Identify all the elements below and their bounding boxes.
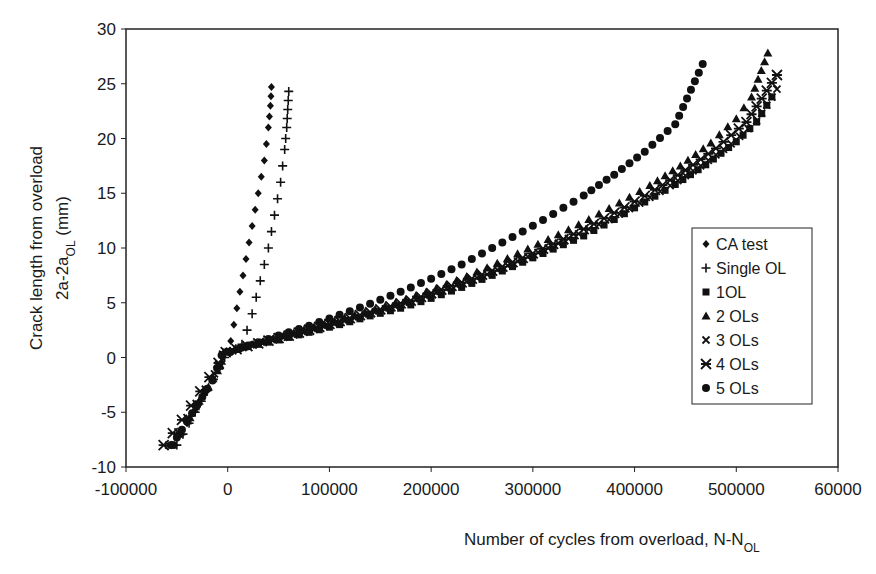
x-tick-label: 200000 [403,480,460,499]
legend-label: Single OL [716,260,786,277]
data-point [580,191,588,199]
x-tick-label: -100000 [95,480,157,499]
data-point [498,239,506,247]
legend-label: 2 OLs [716,308,759,325]
data-point [437,270,445,278]
data-point [198,393,206,401]
data-point [488,244,496,252]
data-point [478,249,486,257]
y-axis-title-sub: OL [64,240,78,256]
data-point [254,338,262,346]
y-axis-title-main: 2a-2a [53,256,72,300]
data-point [183,418,191,426]
data-point [407,283,415,291]
data-point [305,322,313,330]
data-point [208,376,216,384]
y-axis-title-line2: 2a-2aOL (mm) [53,196,78,300]
data-point [386,292,394,300]
x-tick-label: 100000 [301,480,358,499]
data-point [366,300,374,308]
data-point [559,204,567,212]
data-point [417,279,425,287]
data-point [226,348,234,356]
y-axis-title-unit: (mm) [53,196,72,240]
data-point [275,332,283,340]
y-tick-label: 20 [97,130,116,149]
data-point [168,441,176,449]
x-axis-title-main: Number of cycles from overload, N-N [464,530,744,549]
data-point [213,364,221,372]
legend-marker-icon [703,289,710,296]
y-tick-label: 25 [97,75,116,94]
y-axis-title-line1: Crack length from overload [27,146,46,350]
data-point [376,296,384,304]
data-point [587,186,595,194]
data-point [244,341,252,349]
y-tick-label: 10 [97,239,116,258]
data-point [625,159,633,167]
data-point [397,288,405,296]
data-point [519,228,527,236]
data-point [695,69,703,77]
data-point [687,86,695,94]
data-point [549,210,557,218]
data-point [679,103,687,111]
y-tick-label: 30 [97,20,116,39]
data-point [699,60,707,68]
data-point [509,233,517,241]
data-point [595,181,603,189]
legend-label: 4 OLs [716,356,759,373]
data-point [633,153,641,161]
data-point [325,314,333,322]
data-point [218,351,226,359]
x-axis-title: Number of cycles from overload, N-NOL [464,530,760,555]
x-tick-label: 400000 [606,480,663,499]
data-point [656,134,664,142]
data-point [671,120,679,128]
legend-label: 1OL [716,284,746,301]
y-tick-label: 0 [107,349,116,368]
data-point [235,345,243,353]
y-tick-label: -5 [101,403,116,422]
data-point [610,171,618,179]
legend-label: 5 OLs [716,380,759,397]
x-tick-label: 0 [223,480,232,499]
data-point [691,77,699,85]
data-point [285,328,293,336]
data-point [203,385,211,393]
data-point [664,127,672,135]
data-point [346,307,354,315]
x-tick-label: 500000 [708,480,765,499]
data-point [427,275,435,283]
legend-label: 3 OLs [716,332,759,349]
data-point [570,198,578,206]
legend-marker-icon [702,384,710,392]
data-point [603,176,611,184]
y-tick-label: 15 [97,184,116,203]
data-point [683,94,691,102]
data-point [315,318,323,326]
data-point [539,216,547,224]
data-point [173,433,181,441]
data-point [641,148,649,156]
legend: CA testSingle OL1OL2 OLs3 OLs4 OLs5 OLs [692,228,812,404]
data-point [648,141,656,149]
data-point [618,165,626,173]
data-point [447,265,455,273]
data-point [178,426,186,434]
y-tick-label: 5 [107,294,116,313]
data-point [193,401,201,409]
y-axis: -10-5051015202530 [91,20,126,477]
data-point [529,222,537,230]
data-point [675,112,683,120]
data-point [468,255,476,263]
x-axis-title-sub: OL [744,541,760,555]
y-tick-label: -10 [91,458,116,477]
data-point [356,303,364,311]
data-point [264,335,272,343]
data-point [188,409,196,417]
data-point [458,260,466,268]
x-axis: -100000010000020000030000040000050000060… [95,467,862,499]
x-tick-label: 300000 [504,480,561,499]
x-tick-label: 60000 [814,480,861,499]
